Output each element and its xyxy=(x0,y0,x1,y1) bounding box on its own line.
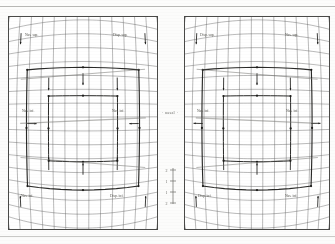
grid-label: Nas. inf. xyxy=(22,109,34,113)
left-eye-distortion-grid: Nas. sup.Disp. sup.Nas. inf.Nas. inf.Nas… xyxy=(8,16,158,230)
grid-label: Disp. sup. xyxy=(200,33,215,37)
left-grid-svg: Nas. sup.Disp. sup.Nas. inf.Nas. inf.Nas… xyxy=(9,17,157,229)
grid-label: Disp. sup. xyxy=(113,33,128,37)
scan-rule-bottom xyxy=(0,236,335,237)
grid-label: Nas. inf. xyxy=(21,194,33,198)
center-nasal-label: · nasal · xyxy=(156,110,184,115)
center-annotation-column: · nasal · 2112 xyxy=(156,16,184,228)
scan-rule-top xyxy=(0,6,335,7)
grid-label: Nas. inf. xyxy=(197,109,209,113)
grid-label: Nas. sup. xyxy=(285,33,298,37)
right-grid-svg: Disp. sup.Nas. sup.Nas. inf.Nas. inf.Dis… xyxy=(185,17,329,229)
scale-tick-label: 2 xyxy=(166,168,168,173)
figure-root: Nas. sup.Disp. sup.Nas. inf.Nas. inf.Nas… xyxy=(0,0,335,244)
grid-label: Nas. sup. xyxy=(25,33,38,37)
scale-bar: 2112 xyxy=(165,164,181,208)
scale-bar-svg: 2112 xyxy=(165,164,181,208)
grid-label: Disp. inf. xyxy=(110,194,124,198)
scale-tick-label: 2 xyxy=(166,201,168,206)
scale-tick-label: 1 xyxy=(166,190,168,195)
right-eye-distortion-grid: Disp. sup.Nas. sup.Nas. inf.Nas. inf.Dis… xyxy=(184,16,330,230)
grid-label: Nas. inf. xyxy=(112,109,124,113)
grid-label: Disp. inf. xyxy=(198,194,212,198)
scale-tick-label: 1 xyxy=(166,179,168,184)
grid-label: Nas. inf. xyxy=(286,109,298,113)
grid-label: Nas. inf. xyxy=(285,194,297,198)
